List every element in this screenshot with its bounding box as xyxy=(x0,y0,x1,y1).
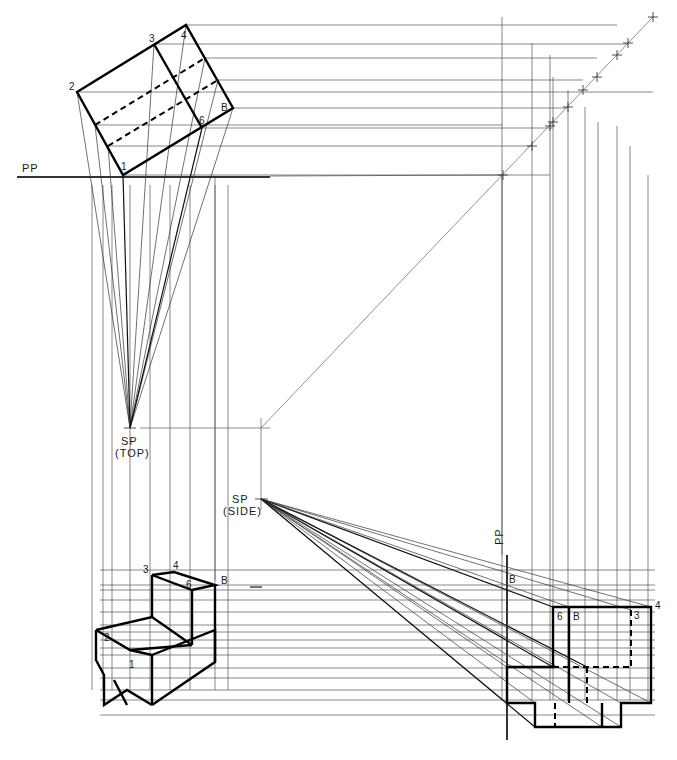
top-point-1: 1 xyxy=(121,161,127,172)
visual-rays xyxy=(77,25,651,727)
visual-ray-top xyxy=(130,128,202,428)
sp-top-label: SP xyxy=(121,435,138,447)
visual-ray-side xyxy=(261,499,569,607)
side-point-b: B xyxy=(573,611,580,622)
persp-point-2: 2 xyxy=(104,632,110,643)
construction-lines xyxy=(17,12,658,740)
persp-point-1: 1 xyxy=(129,659,135,670)
perspective-edge xyxy=(152,630,215,705)
ray-marker-b-pp: B xyxy=(509,574,516,585)
visual-ray-side xyxy=(261,499,587,667)
object-outlines xyxy=(77,25,651,727)
side-point-3: 3 xyxy=(634,610,640,621)
sp-side-label: SP xyxy=(232,493,249,505)
sp-side-sublabel: (SIDE) xyxy=(223,505,262,517)
visual-ray-side xyxy=(261,499,651,607)
top-point-6: 6 xyxy=(199,115,205,126)
top-point-4: 4 xyxy=(181,30,187,41)
top-view-hidden-edge xyxy=(95,58,205,125)
visual-ray-side xyxy=(261,499,507,667)
top-point-b: B xyxy=(221,102,228,113)
visual-ray-side xyxy=(261,499,621,727)
pp-label-top: PP xyxy=(22,162,39,174)
visual-ray-top xyxy=(108,146,130,428)
top-view-hidden-edge xyxy=(108,80,218,146)
visual-ray-side xyxy=(261,499,621,703)
top-point-2: 2 xyxy=(69,81,75,92)
side-point-6: 6 xyxy=(557,611,563,622)
sp-top-sublabel: (TOP) xyxy=(115,447,150,459)
perspective-edge xyxy=(152,572,215,590)
miter-line-45deg xyxy=(261,17,653,428)
persp-point-4: 4 xyxy=(173,560,179,571)
pp-label-side: PP xyxy=(493,528,505,545)
visual-ray-side xyxy=(261,499,602,727)
perspective-edge xyxy=(96,617,192,645)
top-view-edge xyxy=(154,44,202,128)
visual-ray-top xyxy=(77,92,130,428)
persp-point-6: 6 xyxy=(186,579,192,590)
side-point-4: 4 xyxy=(655,600,661,611)
persp-point-3: 3 xyxy=(143,564,149,575)
visual-ray-top xyxy=(130,80,218,428)
visual-ray-side xyxy=(261,499,553,607)
top-point-3: 3 xyxy=(149,33,155,44)
visual-ray-side xyxy=(261,499,631,610)
perspective-edge xyxy=(130,645,192,650)
persp-point-b: B xyxy=(221,575,228,586)
visual-ray-top xyxy=(130,108,233,428)
perspective-construction-drawing: PP PP SP (TOP) SP (SIDE) 2 3 4 6 B 1 3 4… xyxy=(0,0,677,760)
